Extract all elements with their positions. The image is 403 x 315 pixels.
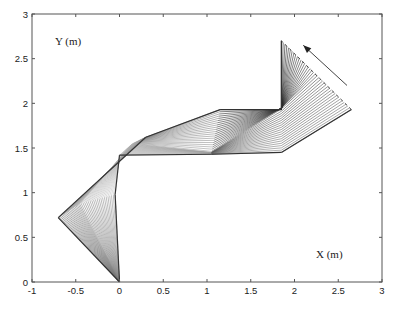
y-tick-label: 1.5 — [15, 143, 28, 154]
y-tick-label: 2.5 — [15, 53, 28, 64]
y-tick-label: 0.5 — [15, 232, 28, 243]
x-tick-label: -0.5 — [68, 285, 84, 296]
x-tick-label: 3 — [379, 285, 384, 296]
x-tick-label: 0 — [117, 285, 122, 296]
robot-arm-sweep-figure: -1-0.500.511.522.53 00.511.522.53 Y (m) … — [0, 0, 403, 315]
x-tick-label: -1 — [28, 285, 36, 296]
x-tick-label: 2.5 — [332, 285, 345, 296]
x-tick-label: 1 — [204, 285, 209, 296]
x-tick-label: 2 — [292, 285, 297, 296]
y-axis-label: Y (m) — [55, 35, 82, 48]
y-tick-label: 1 — [23, 187, 28, 198]
figure-background — [0, 0, 403, 315]
x-tick-label: 0.5 — [157, 285, 170, 296]
y-tick-label: 2 — [23, 98, 28, 109]
y-tick-label: 3 — [23, 9, 28, 20]
y-tick-label: 0 — [23, 277, 28, 288]
x-axis-label: X (m) — [316, 248, 343, 261]
x-tick-label: 1.5 — [244, 285, 257, 296]
